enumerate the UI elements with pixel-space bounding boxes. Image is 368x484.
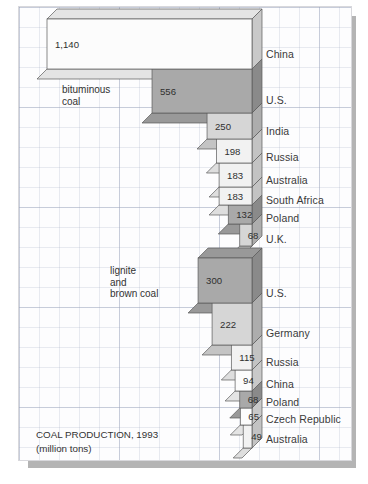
bar-side-face [252,9,262,69]
coal-production-3d-bar-chart: 681321831831982505561,140496568941152223… [0,0,368,484]
bar-value-label: 198 [224,146,240,157]
category-label-bituminous-2: India [266,125,289,137]
category-label-bituminous-6: Poland [266,212,299,224]
bar-value-label: 115 [239,352,254,363]
category-label-bituminous-5: South Africa [266,194,324,206]
series-note-bituminous: bituminous coal [62,84,110,107]
bar-bottom-face-l6 [233,448,252,458]
bar-top-face [47,9,262,19]
bar-value-label: 250 [215,121,231,132]
category-label-lignite-5: Czech Republic [266,413,341,425]
bar-value-label: 68 [248,394,259,405]
chart-caption-units: (million tons) [36,442,92,455]
category-label-lignite-4: Poland [266,396,299,408]
category-label-lignite-2: Russia [266,356,299,368]
chart-caption-title: COAL PRODUCTION, 1993 [36,428,158,441]
category-label-bituminous-4: Australia [266,174,308,186]
bar-value-label: 300 [206,275,222,286]
bar-value-label: 183 [227,191,243,202]
bar-value-label: 65 [248,411,259,422]
bar-b0: 1,140 [47,9,262,69]
category-label-bituminous-0: China [266,48,294,60]
category-label-bituminous-1: U.S. [266,94,287,106]
category-label-lignite-3: China [266,378,294,390]
bar-value-label: 132 [236,209,252,220]
bar-l0: 300 [198,248,262,303]
chart-page: 681321831831982505561,140496568941152223… [0,0,368,484]
category-label-lignite-1: Germany [266,327,310,339]
category-label-lignite-0: U.S. [266,287,287,299]
bar-value-label: 556 [160,86,176,97]
bar-value-label: 222 [220,319,236,330]
bar-value-label: 49 [251,431,262,442]
bar-value-label: 183 [227,170,243,181]
bar-value-label: 1,140 [55,39,79,50]
category-label-bituminous-7: U.K. [266,233,287,245]
category-label-bituminous-3: Russia [266,151,299,163]
bar-side-face [252,248,262,303]
series-note-lignite: lignite and brown coal [110,265,158,300]
bar-value-label: 68 [248,230,259,241]
bar-top-face [198,248,262,258]
category-label-lignite-6: Australia [266,433,308,445]
bar-value-label: 94 [243,375,254,386]
